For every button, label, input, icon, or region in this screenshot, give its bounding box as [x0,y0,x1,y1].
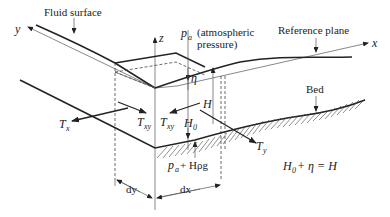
y-axis [28,27,155,88]
svg-text:a: a [175,165,179,174]
pa-label: p a (atmospheric pressure) [180,26,255,51]
svg-text:+ Hρg: + Hρg [180,159,208,171]
x-axis [155,43,368,88]
x-axis-label: x [371,36,378,50]
txy-right-arrow [170,103,200,113]
dx-label: dx [180,183,192,195]
tx-label: T x [59,117,70,133]
fluid-surface-curve [36,25,155,88]
svg-text:p: p [167,158,174,172]
fluid-surface-label: Fluid surface [44,6,102,18]
txy-left-label: T xy [137,115,152,131]
reference-plane-label: Reference plane [278,24,349,36]
y-axis-label: y [14,22,21,36]
bed-label: Bed [306,83,324,95]
svg-text:p: p [180,26,187,40]
svg-text:a: a [188,33,192,42]
svg-text:pressure): pressure) [197,38,238,51]
z-axis-label: z [158,31,164,45]
eta-label: η [191,71,197,85]
fluid-element-diagram: Fluid surface y z x p a (atmospheric pre… [0,0,390,217]
svg-text:0: 0 [193,123,197,132]
h-label: H [202,97,213,111]
svg-text:+ η = H: + η = H [297,159,338,173]
txy-right-label: T xy [160,115,175,131]
svg-text:x: x [65,124,70,133]
svg-text:y: y [262,146,267,155]
dy-label: dy [126,183,138,195]
svg-text:xy: xy [166,122,175,131]
ty-label: T y [256,139,267,155]
svg-text:0: 0 [292,166,296,175]
equation: H 0 + η = H [282,159,338,175]
svg-text:xy: xy [143,122,152,131]
txy-left-arrow [118,102,146,113]
bottom-pressure-label: p a + Hρg [167,158,208,174]
h0-label: H 0 [183,116,197,132]
